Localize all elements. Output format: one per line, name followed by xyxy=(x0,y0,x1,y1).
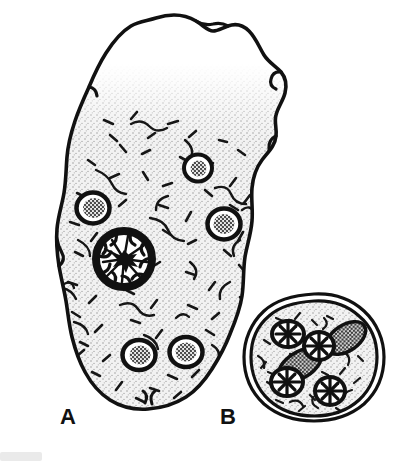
panel-label-b: B xyxy=(220,404,236,430)
cyst-nucleus-1 xyxy=(272,321,304,347)
cyst-nucleus-3 xyxy=(271,368,303,396)
panel-label-a: A xyxy=(60,404,76,430)
cyst-nucleus-2 xyxy=(304,332,334,360)
food-vacuole-1 xyxy=(184,155,212,182)
page-artifact-smudge xyxy=(0,452,42,461)
figure-canvas: A B xyxy=(0,0,404,464)
cyst-nucleus-4 xyxy=(315,377,345,405)
food-vacuole-2 xyxy=(77,193,110,224)
food-vacuole-4 xyxy=(123,340,156,370)
food-vacuole-5 xyxy=(170,337,203,367)
illustration-svg xyxy=(0,0,404,464)
food-vacuole-3 xyxy=(208,209,241,240)
trophozoite-nucleus xyxy=(96,231,152,287)
